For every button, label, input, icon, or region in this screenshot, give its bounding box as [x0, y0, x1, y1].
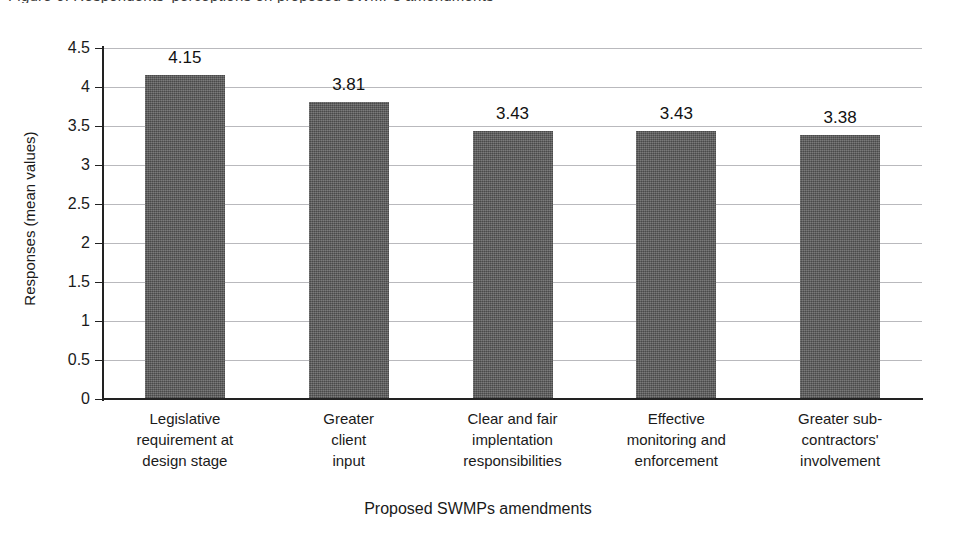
figure-caption-clipped: Figure 6. Respondents' perceptions on pr…: [0, 0, 956, 3]
bar-value-label: 4.15: [140, 49, 230, 67]
y-axis-tick-label: 0.5: [42, 352, 90, 368]
y-axis-line: [102, 46, 104, 401]
x-axis-category-label: Clear and fairimplentationresponsibiliti…: [431, 408, 595, 471]
x-axis-category-line: Legislative: [103, 408, 267, 429]
y-axis-tick-value: 1: [50, 313, 90, 329]
x-axis-category-line: responsibilities: [431, 450, 595, 471]
gridline: [103, 87, 922, 88]
x-axis-category-line: monitoring and: [594, 429, 758, 450]
x-axis-category-label: Greater sub-contractors'involvement: [758, 408, 922, 471]
y-axis-tick-value: 2: [50, 235, 90, 251]
y-axis-tick-label: 3.5: [42, 118, 90, 134]
y-axis-tick-label: 4.5: [42, 40, 90, 56]
x-axis-category-line: Greater: [267, 408, 431, 429]
x-axis-category-line: input: [267, 450, 431, 471]
bar: [636, 131, 716, 399]
y-axis-tick-value: 1.5: [50, 274, 90, 290]
x-axis-category-line: Effective: [594, 408, 758, 429]
y-axis-tick-label: 1: [42, 313, 90, 329]
x-axis-category-line: contractors': [758, 429, 922, 450]
y-axis-tick-value: 4: [50, 79, 90, 95]
y-axis-tick-value: 3: [50, 157, 90, 173]
x-axis-category-line: requirement at: [103, 429, 267, 450]
x-axis-category-line: enforcement: [594, 450, 758, 471]
y-axis-tick-value: 2.5: [50, 196, 90, 212]
x-axis-category-label: Greaterclientinput: [267, 408, 431, 471]
bar: [473, 131, 553, 399]
y-axis-tick-value: 3.5: [50, 118, 90, 134]
x-axis-line: [102, 398, 923, 400]
x-axis-category-line: Greater sub-: [758, 408, 922, 429]
x-axis-category-line: involvement: [758, 450, 922, 471]
x-axis-category-line: client: [267, 429, 431, 450]
bar-value-label: 3.43: [631, 105, 721, 123]
y-axis-tick-label: 3: [42, 157, 90, 173]
bar-value-label: 3.38: [795, 109, 885, 127]
bar-value-label: 3.81: [304, 76, 394, 94]
y-axis-tick-label: 2.5: [42, 196, 90, 212]
y-axis-tick-label: 1.5: [42, 274, 90, 290]
y-axis-tick-value: 4.5: [50, 40, 90, 56]
y-axis-tick-value: 0.5: [50, 352, 90, 368]
y-axis-tick-label: 2: [42, 235, 90, 251]
y-axis-tick-label: 4: [42, 79, 90, 95]
bar-value-label: 3.43: [468, 105, 558, 123]
bar-chart-figure: Figure 6. Respondents' perceptions on pr…: [0, 0, 956, 537]
x-axis-category-line: Clear and fair: [431, 408, 595, 429]
bar: [309, 102, 389, 399]
plot-area: [103, 48, 922, 399]
y-axis-tick-value: 0: [50, 391, 90, 407]
x-axis-category-line: design stage: [103, 450, 267, 471]
x-axis-category-label: Effectivemonitoring andenforcement: [594, 408, 758, 471]
bar: [145, 75, 225, 399]
x-axis-category-label: Legislativerequirement atdesign stage: [103, 408, 267, 471]
bar: [800, 135, 880, 399]
y-axis-tick-label: 0: [42, 391, 90, 407]
x-axis-title: Proposed SWMPs amendments: [0, 500, 956, 518]
x-axis-category-line: implentation: [431, 429, 595, 450]
y-axis-title: Responses (mean values): [21, 69, 38, 369]
